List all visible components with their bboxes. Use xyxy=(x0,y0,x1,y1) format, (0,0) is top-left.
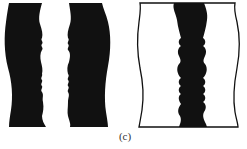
left-vase xyxy=(5,3,111,127)
figure-canvas xyxy=(0,0,247,149)
figure-caption: (c) xyxy=(110,130,140,142)
right-vase-column xyxy=(173,3,207,127)
right-vase xyxy=(138,3,240,127)
left-vase-inner-column xyxy=(39,3,71,127)
